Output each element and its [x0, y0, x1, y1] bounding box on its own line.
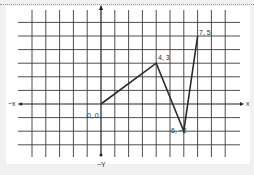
point-label-6-neg2: 6, −2: [171, 127, 187, 134]
point-label-7-5: 7, 5: [199, 29, 211, 36]
diagram-frame: 0, 0 4, 3 6, −2 7, 5 x −x −Y: [0, 0, 254, 175]
point-label-4-3: 4, 3: [158, 54, 170, 61]
y-axis-negative-label: −Y: [97, 161, 106, 168]
point-label-origin: 0, 0: [87, 112, 99, 119]
x-axis-negative-label: −x: [8, 100, 16, 107]
plotted-path: [101, 36, 198, 131]
coordinate-graph: 0, 0 4, 3 6, −2 7, 5 x −x −Y: [0, 0, 254, 175]
axes: [18, 5, 244, 157]
x-axis-positive-label: x: [246, 100, 250, 107]
